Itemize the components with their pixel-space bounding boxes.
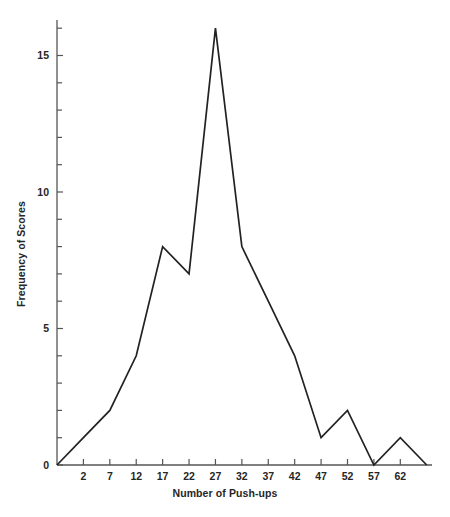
y-tick-label: 0 [25, 459, 49, 471]
x-tick-label: 12 [130, 470, 142, 482]
x-tick-label: 32 [236, 470, 248, 482]
x-tick-label: 47 [315, 470, 327, 482]
x-tick-label: 57 [368, 470, 380, 482]
frequency-polygon-chart: 271217222732374247525762 051015 Number o… [0, 0, 450, 517]
y-tick-label: 15 [25, 49, 49, 61]
x-tick-label: 27 [210, 470, 222, 482]
y-tick-label: 10 [25, 186, 49, 198]
axes-group [57, 20, 432, 465]
x-tick-label: 22 [183, 470, 195, 482]
x-tick-label: 52 [342, 470, 354, 482]
x-tick-label: 62 [394, 470, 406, 482]
x-tick-label: 17 [157, 470, 169, 482]
y-axis-title: Frequency of Scores [15, 189, 27, 319]
y-tick-label: 5 [25, 322, 49, 334]
x-tick-label: 42 [289, 470, 301, 482]
x-axis-title: Number of Push-ups [0, 487, 450, 499]
data-series-line [57, 28, 427, 465]
x-tick-label: 2 [80, 470, 86, 482]
x-tick-label: 7 [107, 470, 113, 482]
tick-marks [57, 28, 400, 465]
plot-area [0, 0, 450, 517]
x-tick-label: 37 [262, 470, 274, 482]
